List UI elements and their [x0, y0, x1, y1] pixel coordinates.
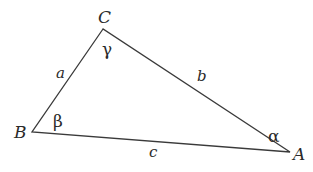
vertex-label-a: A	[291, 144, 305, 164]
side-label-b: b	[197, 67, 207, 85]
triangle-shape	[32, 29, 290, 152]
vertex-label-c: C	[98, 7, 111, 27]
angle-label-alpha: α	[268, 126, 280, 146]
vertex-label-b: B	[13, 122, 27, 142]
angle-label-beta: β	[53, 111, 63, 131]
side-label-c: c	[149, 143, 158, 161]
side-label-a: a	[56, 64, 65, 82]
angle-label-gamma: γ	[102, 39, 112, 59]
triangle-diagram: C B A a b c γ β α	[0, 0, 313, 172]
